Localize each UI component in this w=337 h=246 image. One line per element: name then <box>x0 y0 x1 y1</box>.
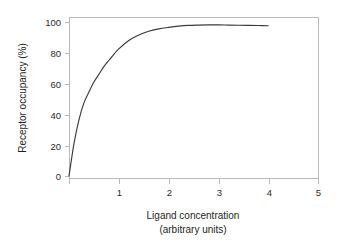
x-tick-label-3: 3 <box>217 187 222 198</box>
chart-figure: 100 80 60 40 20 0 1 2 3 4 5 Receptor occ… <box>0 0 337 246</box>
x-tick-label-2: 2 <box>167 187 172 198</box>
x-axis-title-units: (arbitrary units) <box>159 224 226 235</box>
y-axis-title: Receptor occupancy (%) <box>17 43 28 153</box>
y-tick-label-20: 20 <box>50 141 61 152</box>
x-tick-label-5: 5 <box>316 187 321 198</box>
y-tick-label-60: 60 <box>50 79 61 90</box>
x-tick-label-1: 1 <box>117 187 122 198</box>
y-tick-label-100: 100 <box>45 17 61 28</box>
x-tick-label-4: 4 <box>267 187 272 198</box>
x-axis-title: Ligand concentration <box>147 210 240 221</box>
receptor-occupancy-chart: 100 80 60 40 20 0 1 2 3 4 5 Receptor occ… <box>0 0 337 246</box>
y-tick-label-40: 40 <box>50 110 61 121</box>
y-tick-label-0: 0 <box>56 171 61 182</box>
y-tick-label-80: 80 <box>50 48 61 59</box>
